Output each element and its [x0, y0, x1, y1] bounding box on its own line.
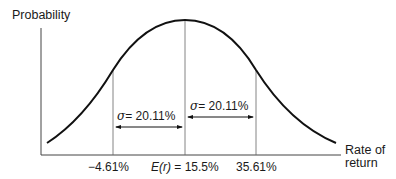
sigma-symbol: σ	[190, 99, 198, 113]
right-sigma-label: σ= 20.11%	[190, 99, 248, 113]
tick-minus-sigma: −4.61%	[88, 161, 129, 174]
left-sigma-arrow	[115, 125, 183, 129]
bell-curve	[47, 20, 336, 143]
tick-mean: E(r) = 15.5%	[151, 161, 219, 174]
right-sigma-arrow	[187, 115, 254, 119]
normal-distribution-diagram: Probability σ= 20.11% σ= 20.11% −4.61% E…	[0, 0, 396, 179]
tick-plus-sigma: 35.61%	[236, 161, 277, 174]
diagram-canvas	[0, 0, 396, 179]
y-axis-label: Probability	[12, 9, 70, 22]
x-axis-label: Rate of return	[345, 144, 385, 170]
sigma-symbol: σ	[117, 109, 125, 123]
left-sigma-label: σ= 20.11%	[117, 109, 175, 123]
